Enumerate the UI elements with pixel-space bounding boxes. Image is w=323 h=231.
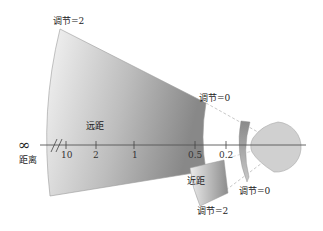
accommodation-diagram: 10 2 1 0.5 0.2 调节=2 远距 调节=0 ∞ 距离 近距 调节=2… (0, 0, 323, 231)
tick-label-10: 10 (61, 150, 73, 160)
tick-label-2: 2 (93, 150, 99, 160)
eye-icon (251, 122, 301, 172)
distance-label: 距离 (19, 154, 37, 165)
tick-label-1: 1 (132, 150, 138, 160)
tick-label-0.2: 0.2 (219, 150, 233, 160)
far-region-label: 远距 (86, 121, 104, 131)
far-right-accommodation-label: 调节=0 (199, 93, 231, 103)
lens-accommodation-label: 调节=0 (239, 186, 271, 196)
far-top-accommodation-label: 调节=2 (53, 16, 84, 26)
near-region-label: 近距 (187, 175, 205, 186)
far-range-wedge (47, 29, 206, 196)
near-bottom-accommodation-label: 调节=2 (197, 206, 228, 216)
infinity-symbol: ∞ (18, 136, 31, 154)
tick-label-0.5: 0.5 (188, 150, 203, 160)
lens-icon (239, 121, 250, 182)
